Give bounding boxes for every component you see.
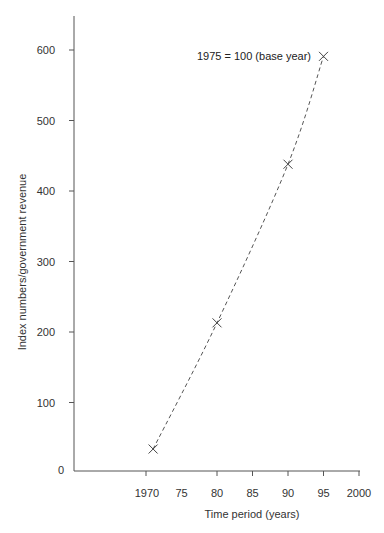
line-chart: 0100200300400500600 197075808590952000 I… bbox=[0, 0, 384, 533]
x-marker-icon bbox=[149, 445, 158, 454]
y-tick-label: 0 bbox=[58, 464, 64, 476]
x-tick-label: 90 bbox=[282, 487, 294, 499]
x-tick-label: 85 bbox=[246, 487, 258, 499]
y-axis-title: Index numbers/government revenue bbox=[16, 174, 28, 351]
y-tick-label: 100 bbox=[37, 397, 55, 409]
x-axis-title: Time period (years) bbox=[205, 508, 300, 520]
series-line bbox=[153, 56, 323, 449]
x-tick-label: 95 bbox=[317, 487, 329, 499]
y-tick-label: 400 bbox=[37, 185, 55, 197]
series-markers bbox=[149, 52, 328, 454]
x-marker-icon bbox=[284, 160, 293, 169]
x-marker-icon bbox=[213, 318, 222, 327]
x-marker-icon bbox=[319, 52, 328, 61]
y-tick-label: 500 bbox=[37, 115, 55, 127]
x-axis-ticks: 197075808590952000 bbox=[135, 471, 371, 499]
y-tick-label: 600 bbox=[37, 44, 55, 56]
y-tick-label: 300 bbox=[37, 256, 55, 268]
x-tick-label: 80 bbox=[211, 487, 223, 499]
y-tick-label: 200 bbox=[37, 326, 55, 338]
x-tick-label: 1970 bbox=[135, 487, 159, 499]
x-tick-label: 75 bbox=[175, 487, 187, 499]
base-year-annotation: 1975 = 100 (base year) bbox=[197, 50, 311, 62]
y-axis-ticks: 0100200300400500600 bbox=[37, 44, 74, 476]
x-tick-label: 2000 bbox=[347, 487, 371, 499]
